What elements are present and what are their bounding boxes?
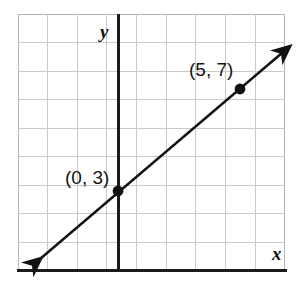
y-axis-label: y xyxy=(100,22,108,41)
plotted-line-layer xyxy=(0,0,304,287)
point-label-5-7: (5, 7) xyxy=(189,60,233,79)
point-label-0-3: (0, 3) xyxy=(65,168,109,187)
x-axis-label: x xyxy=(272,244,282,263)
graph-line xyxy=(40,47,289,259)
graph-figure: y x (0, 3) (5, 7) xyxy=(0,0,304,287)
point-marker-0-3 xyxy=(113,186,124,197)
point-marker-5-7 xyxy=(235,84,246,95)
